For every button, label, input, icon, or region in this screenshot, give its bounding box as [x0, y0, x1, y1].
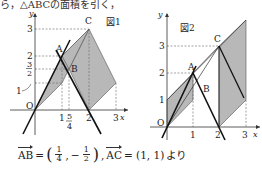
fig2-x-tick-1: 1	[190, 130, 196, 140]
fig1-point-a: A	[55, 44, 63, 54]
fig1-x-tick-1: 1	[59, 113, 65, 123]
ab-y-fraction: 1 2	[83, 146, 90, 163]
vector-ab: AB	[18, 149, 33, 161]
formula-suffix: より	[166, 147, 186, 162]
fig1-x-axis-label: x	[120, 113, 125, 122]
fig1-x-tick-2: 2	[86, 113, 92, 123]
comma: ,	[101, 149, 104, 161]
fig2-origin-label: O	[157, 118, 164, 128]
fig1-y-tick-1: 1	[16, 86, 22, 96]
fig1-y-axis-label: y	[28, 9, 34, 18]
minus-sign: −	[71, 149, 80, 161]
fig1-label: 図1	[106, 17, 121, 27]
fig1-x-tick-3: 3	[113, 113, 119, 123]
fig1-x-frac-den: 4	[67, 122, 72, 131]
fig2-y-tick-3: 3	[159, 41, 165, 51]
figure-1: y x O 3 2 3 2 1 1 5 4 2 3 A B C 図1	[10, 9, 128, 135]
vector-ac: AC	[106, 149, 122, 161]
ab-x-fraction: 1 4	[55, 146, 62, 163]
fig2-y-tick-2: 2	[159, 68, 165, 78]
fig1-point-c: C	[85, 16, 92, 26]
fig2-point-a: A	[187, 62, 195, 72]
comma: ,	[65, 149, 68, 161]
fig2-x-tick-3: 3	[242, 130, 248, 140]
fig1-origin-label: O	[26, 101, 33, 111]
open-paren: (	[46, 148, 52, 162]
fig1-point-b: B	[71, 64, 78, 74]
close-paren: )	[93, 148, 99, 162]
fig2-y-axis-label: y	[157, 10, 163, 19]
figure-2: y x O 3 2 1 1 2 3 A B C 図2	[150, 10, 260, 140]
fig2-label: 図2	[180, 23, 195, 33]
fig2-x-axis-label: x	[253, 130, 258, 139]
fig1-y-tick-3: 3	[27, 24, 33, 34]
fig1-y-frac-den: 2	[27, 69, 32, 78]
equals-sign: =	[35, 149, 44, 161]
fig1-y-frac-num: 3	[27, 60, 32, 69]
fig2-x-tick-2: 2	[215, 130, 221, 140]
fig2-point-b: B	[203, 84, 210, 94]
vector-formula: AB = ( 1 4 , − 1 2 ) , AC = (1, 1) より	[18, 146, 186, 163]
fig1-x-frac-num: 5	[67, 112, 72, 121]
fig2-point-c: C	[214, 34, 221, 44]
ac-value: = (1, 1)	[124, 149, 164, 161]
fig2-y-tick-1: 1	[159, 95, 165, 105]
